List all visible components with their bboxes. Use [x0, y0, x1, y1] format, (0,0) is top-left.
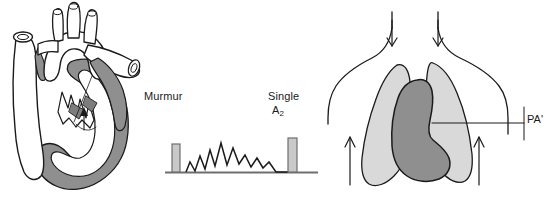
heart-anatomy-svg	[0, 0, 175, 208]
figure-container: Murmur Single A2 PA'	[0, 0, 555, 208]
pa-text: PA	[527, 113, 541, 125]
chest-silhouette-svg	[320, 0, 555, 208]
heart-anatomy-panel	[0, 0, 175, 208]
murmur-waveform	[186, 143, 288, 172]
branch-3-lumen	[88, 11, 96, 16]
chordae-line-2	[76, 124, 96, 130]
murmur-label: Murmur	[144, 90, 183, 102]
aorta-lumen-inner	[18, 34, 29, 39]
a2-sound-bar	[288, 138, 297, 172]
pa-label: PA'	[527, 113, 543, 125]
branch-1-lumen	[53, 9, 61, 14]
single-a2-label: Single	[268, 90, 299, 102]
chest-silhouette-panel	[320, 0, 555, 208]
pa-suffix: '	[541, 113, 543, 125]
a2-label: A2	[272, 104, 284, 120]
a2-subscript: 2	[279, 109, 284, 118]
branch-2-lumen	[69, 4, 78, 9]
